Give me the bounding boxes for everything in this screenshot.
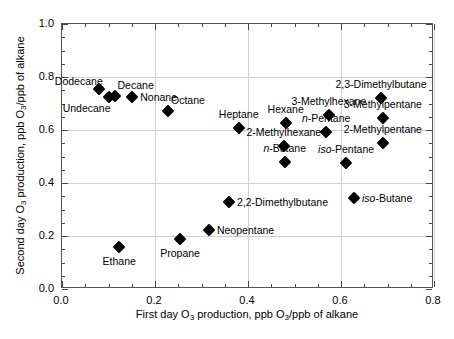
data-point-label: 2-Methylhexane <box>246 126 321 138</box>
x-axis-title-pre: First day O <box>136 308 190 320</box>
y-axis-minor-tick-right <box>429 276 432 277</box>
x-axis-minor-tick-top <box>178 24 179 27</box>
x-axis-minor-tick <box>178 284 179 287</box>
y-axis-minor-tick-right <box>429 223 432 224</box>
y-axis-minor-tick <box>62 90 65 91</box>
data-point-marker[interactable] <box>376 137 389 150</box>
y-axis-minor-tick-right <box>429 51 432 52</box>
x-axis-major-tick <box>155 281 156 287</box>
x-axis-major-tick-top <box>434 24 435 30</box>
y-axis-minor-tick-right <box>429 170 432 171</box>
y-axis-minor-tick <box>62 276 65 277</box>
data-point-marker[interactable] <box>113 240 126 253</box>
y-axis-minor-tick <box>62 170 65 171</box>
x-axis-title: First day O3 production, ppb O3/ppb of a… <box>61 308 433 322</box>
x-axis-minor-tick-top <box>202 24 203 27</box>
data-point-marker[interactable] <box>162 105 175 118</box>
data-point-marker[interactable] <box>320 125 333 138</box>
y-axis-minor-tick-right <box>429 104 432 105</box>
y-axis-major-tick-right <box>426 77 432 78</box>
y-axis-minor-tick <box>62 210 65 211</box>
x-axis-title-post: /ppb of alkane <box>289 308 358 320</box>
y-axis-title-sub1: 3 <box>19 200 28 204</box>
x-axis-minor-tick-top <box>364 24 365 27</box>
x-axis-minor-tick <box>364 284 365 287</box>
y-axis-major-tick-right <box>426 130 432 131</box>
x-axis-minor-tick <box>109 284 110 287</box>
data-point-label: Ethane <box>103 255 136 267</box>
y-axis-minor-tick <box>62 117 65 118</box>
data-point-label: Dodecane <box>55 75 103 87</box>
y-axis-minor-tick <box>62 196 65 197</box>
data-point-marker[interactable] <box>174 233 187 246</box>
scatter-chart-figure: Second day O3 production, ppb O3/ppb of … <box>0 0 454 339</box>
data-point-label: Octane <box>171 94 205 106</box>
data-point-marker[interactable] <box>348 191 361 204</box>
x-axis-minor-tick-top <box>109 24 110 27</box>
y-axis-minor-tick <box>62 249 65 250</box>
y-axis-minor-tick-right <box>429 157 432 158</box>
x-axis-minor-tick <box>411 284 412 287</box>
y-axis-tick-label: 1.0 <box>26 17 54 29</box>
y-axis-major-tick <box>62 289 68 290</box>
y-axis-minor-tick <box>62 223 65 224</box>
x-axis-title-mid: production, ppb O <box>194 308 285 320</box>
data-point-label: 2-Methylpentane <box>344 123 422 135</box>
y-axis-minor-tick-right <box>429 263 432 264</box>
y-axis-tick-label: 0.0 <box>26 282 54 294</box>
y-axis-major-tick <box>62 130 68 131</box>
x-axis-minor-tick <box>318 284 319 287</box>
y-axis-minor-tick <box>62 157 65 158</box>
y-axis-minor-tick <box>62 263 65 264</box>
x-axis-minor-tick-top <box>411 24 412 27</box>
y-axis-title: Second day O3 production, ppb O3/ppb of … <box>14 23 30 288</box>
vertical-gridline <box>248 24 249 287</box>
x-axis-minor-tick <box>225 284 226 287</box>
x-axis-tick-label: 0.2 <box>146 294 161 306</box>
data-point-marker[interactable] <box>203 224 216 237</box>
y-axis-minor-tick-right <box>429 143 432 144</box>
y-axis-major-tick <box>62 24 68 25</box>
y-axis-minor-tick-right <box>429 117 432 118</box>
x-axis-major-tick-top <box>341 24 342 30</box>
horizontal-gridline <box>62 183 432 184</box>
x-axis-minor-tick-top <box>388 24 389 27</box>
y-axis-major-tick-right <box>426 183 432 184</box>
y-axis-minor-tick-right <box>429 249 432 250</box>
x-axis-minor-tick <box>132 284 133 287</box>
x-axis-minor-tick-top <box>225 24 226 27</box>
y-axis-minor-tick <box>62 143 65 144</box>
data-point-label: Decane <box>118 79 154 91</box>
y-axis-minor-tick <box>62 51 65 52</box>
y-axis-minor-tick-right <box>429 64 432 65</box>
x-axis-minor-tick <box>271 284 272 287</box>
x-axis-minor-tick-top <box>85 24 86 27</box>
data-point-marker[interactable] <box>232 122 245 135</box>
y-axis-title-pre: Second day O <box>14 205 26 275</box>
y-axis-title-sub2: 3 <box>19 106 28 110</box>
data-point-marker[interactable] <box>278 156 291 169</box>
data-point-marker[interactable] <box>223 196 236 209</box>
x-axis-major-tick <box>248 281 249 287</box>
vertical-gridline <box>341 24 342 287</box>
x-axis-minor-tick-top <box>318 24 319 27</box>
y-axis-major-tick <box>62 236 68 237</box>
x-axis-tick-label: 0.4 <box>239 294 254 306</box>
y-axis-tick-label: 0.4 <box>26 176 54 188</box>
y-axis-major-tick-right <box>426 236 432 237</box>
x-axis-minor-tick-top <box>295 24 296 27</box>
y-axis-minor-tick <box>62 37 65 38</box>
y-axis-minor-tick-right <box>429 37 432 38</box>
x-axis-major-tick <box>62 281 63 287</box>
data-point-marker[interactable] <box>126 91 139 104</box>
x-axis-major-tick <box>341 281 342 287</box>
y-axis-tick-label: 0.8 <box>26 70 54 82</box>
vertical-gridline <box>434 24 435 287</box>
data-point-label: iso-Pentane <box>318 143 374 155</box>
y-axis-major-tick <box>62 183 68 184</box>
y-axis-minor-tick <box>62 64 65 65</box>
y-axis-major-tick-right <box>426 289 432 290</box>
x-axis-minor-tick <box>295 284 296 287</box>
x-axis-minor-tick <box>388 284 389 287</box>
x-axis-tick-label: 0.8 <box>425 294 440 306</box>
